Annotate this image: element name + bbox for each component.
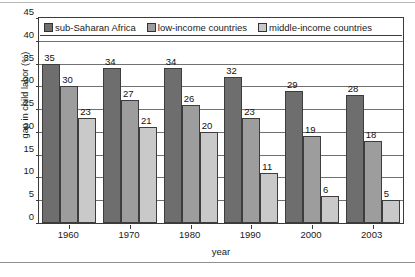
y-axis-tick-label: 10: [23, 166, 34, 176]
bar-value-label: 29: [287, 80, 298, 90]
bar-value-label: 28: [348, 84, 359, 94]
x-axis-tick-label: 2000: [300, 229, 321, 240]
bar-value-label: 27: [123, 89, 134, 99]
bar-group: 342721: [103, 18, 157, 223]
bar-group: 353023: [42, 18, 96, 223]
bar[interactable]: [382, 200, 400, 223]
y-axis-tick-label: 0: [29, 212, 34, 222]
bar[interactable]: [200, 132, 218, 223]
x-axis-tick-labels: 196019701980199020002003: [38, 229, 404, 243]
x-axis-tick-label: 2003: [361, 229, 382, 240]
bar[interactable]: [242, 118, 260, 223]
bar-value-label: 23: [244, 107, 255, 117]
bar-group: 322311: [224, 18, 278, 223]
bar-value-label: 6: [323, 185, 328, 195]
bar-value-label: 18: [366, 130, 377, 140]
bar-value-label: 5: [384, 189, 389, 199]
x-axis-tick-label: 1980: [179, 229, 200, 240]
x-axis-tick-label: 1990: [240, 229, 261, 240]
bar-value-label: 35: [44, 53, 55, 63]
bar-value-label: 26: [184, 94, 195, 104]
y-axis-tick-label: 45: [23, 7, 34, 17]
bar[interactable]: [182, 105, 200, 223]
bar[interactable]: [139, 127, 157, 223]
bar[interactable]: [78, 118, 96, 223]
bar[interactable]: [164, 68, 182, 223]
bar-value-label: 34: [166, 57, 177, 67]
bar-value-label: 21: [141, 116, 152, 126]
y-axis-tick-label: 15: [23, 144, 34, 154]
bar-group: 29196: [285, 18, 339, 223]
x-axis-tick-label: 1960: [58, 229, 79, 240]
y-axis-tick-label: 35: [23, 53, 34, 63]
x-axis-title: year: [38, 246, 404, 257]
x-axis-tick-label: 1970: [118, 229, 139, 240]
bar[interactable]: [303, 136, 321, 223]
bar[interactable]: [103, 68, 121, 223]
bar-group: 342620: [164, 18, 218, 223]
bar-group: 28185: [346, 18, 400, 223]
y-axis-tick-label: 40: [23, 30, 34, 40]
y-axis-tick-label: 25: [23, 98, 34, 108]
y-axis-tick-label: 30: [23, 75, 34, 85]
bar[interactable]: [121, 100, 139, 223]
bar-value-label: 32: [226, 66, 237, 76]
bar-value-label: 19: [305, 125, 316, 135]
bar[interactable]: [260, 173, 278, 223]
bar-value-label: 34: [105, 57, 116, 67]
bar[interactable]: [224, 77, 242, 223]
bar[interactable]: [42, 64, 60, 223]
scan-line-bottom: [0, 262, 415, 263]
plot-area: sub-Saharan Africalow-income countriesmi…: [38, 17, 404, 224]
bars-layer: 3530233427213426203223112919628185: [39, 18, 403, 223]
bar-value-label: 30: [62, 75, 73, 85]
y-axis-tick-label: 20: [23, 121, 34, 131]
bar[interactable]: [346, 95, 364, 223]
bar-value-label: 20: [202, 121, 213, 131]
bar-value-label: 23: [80, 107, 91, 117]
bar[interactable]: [285, 91, 303, 223]
y-axis-tick-mark: [36, 223, 39, 224]
y-axis-tick-labels: 051015202530354045: [14, 12, 34, 224]
y-axis-tick-label: 5: [29, 189, 34, 199]
bar[interactable]: [60, 86, 78, 223]
scan-line-top: [0, 2, 415, 3]
bar-value-label: 11: [262, 162, 272, 172]
bar[interactable]: [364, 141, 382, 223]
bar[interactable]: [321, 196, 339, 223]
